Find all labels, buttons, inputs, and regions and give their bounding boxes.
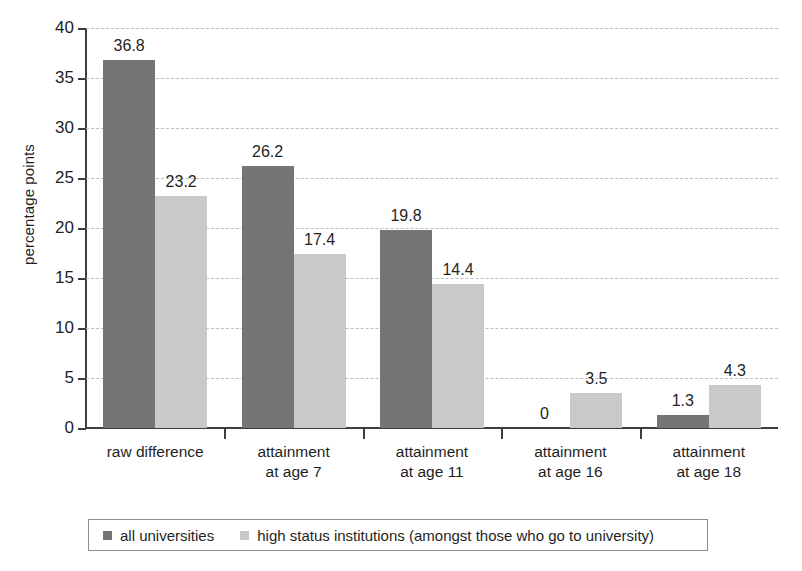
x-axis-category-label: attainmentat age 11 [363, 442, 501, 482]
legend-swatch-icon [103, 531, 112, 540]
y-axis-title: percentage points [20, 125, 37, 285]
bar [570, 393, 622, 428]
category-label-line: at age 7 [224, 462, 362, 482]
bar [294, 254, 346, 428]
legend-item[interactable]: all universities [103, 527, 214, 544]
y-tick-label: 40 [55, 18, 74, 38]
bar-value-label: 23.2 [166, 173, 197, 191]
bar [709, 385, 761, 428]
y-tick-label: 25 [55, 168, 74, 188]
y-tick-mark [78, 128, 86, 130]
x-axis-tick [640, 428, 642, 439]
category-label-line: attainment [224, 442, 362, 462]
bar-value-label: 17.4 [304, 231, 335, 249]
x-axis-tick [363, 428, 365, 439]
legend-label: high status institutions (amongst those … [257, 527, 654, 544]
y-tick-mark [78, 228, 86, 230]
bar [380, 230, 432, 428]
gridline [86, 128, 778, 129]
bar-value-label: 1.3 [672, 392, 694, 410]
y-tick-mark [78, 428, 86, 430]
x-axis-tick [501, 428, 503, 439]
bar-value-label: 26.2 [252, 143, 283, 161]
bar [432, 284, 484, 428]
y-tick-label: 0 [65, 418, 74, 438]
chart-legend: all universitieshigh status institutions… [88, 519, 708, 551]
bar-value-label: 3.5 [585, 370, 607, 388]
x-axis-category-label: attainmentat age 7 [224, 442, 362, 482]
y-tick-label: 5 [65, 368, 74, 388]
y-tick-mark [78, 78, 86, 80]
plot-area: 051015202530354036.823.226.217.419.814.4… [86, 28, 778, 428]
category-label-line: at age 18 [640, 462, 778, 482]
y-tick-mark [78, 28, 86, 30]
x-axis-category-label: attainmentat age 18 [640, 442, 778, 482]
x-axis-tick [224, 428, 226, 439]
bar-value-label: 4.3 [724, 362, 746, 380]
category-label-line: attainment [363, 442, 501, 462]
bar [103, 60, 155, 428]
category-label-line: raw difference [86, 442, 224, 462]
legend-swatch-icon [240, 531, 249, 540]
legend-item[interactable]: high status institutions (amongst those … [240, 527, 654, 544]
gridline [86, 28, 778, 29]
y-tick-label: 30 [55, 118, 74, 138]
y-tick-mark [78, 178, 86, 180]
y-tick-label: 10 [55, 318, 74, 338]
x-axis-category-label: attainmentat age 16 [501, 442, 639, 482]
category-label-line: attainment [640, 442, 778, 462]
bar-value-label: 19.8 [390, 207, 421, 225]
y-tick-mark [78, 378, 86, 380]
category-label-line: at age 11 [363, 462, 501, 482]
category-label-line: attainment [501, 442, 639, 462]
bar-value-label: 0 [540, 405, 549, 423]
category-label-line: at age 16 [501, 462, 639, 482]
y-tick-label: 20 [55, 218, 74, 238]
x-axis-category-label: raw difference [86, 442, 224, 462]
bar [155, 196, 207, 428]
y-tick-label: 35 [55, 68, 74, 88]
bar-value-label: 14.4 [442, 261, 473, 279]
legend-label: all universities [120, 527, 214, 544]
y-tick-label: 15 [55, 268, 74, 288]
gridline [86, 78, 778, 79]
y-tick-mark [78, 328, 86, 330]
bar-chart: percentage points 051015202530354036.823… [0, 0, 802, 571]
bar [657, 415, 709, 428]
y-tick-mark [78, 278, 86, 280]
bar [242, 166, 294, 428]
bar-value-label: 36.8 [114, 37, 145, 55]
